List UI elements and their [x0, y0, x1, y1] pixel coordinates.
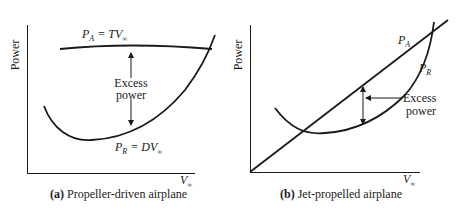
power-curves-figure: Power Excess power PA = TV∞ PR = DV∞ V∞ …: [0, 0, 462, 210]
panel-b-jet: Power Excess power PA PR V∞ (b) Jet-prop…: [231, 20, 448, 201]
panel-a-pa-label: PA = TV∞: [81, 27, 127, 43]
panel-b-pr-label: PR: [418, 61, 431, 77]
panel-b-y-label: Power: [231, 40, 245, 71]
panel-a-pr-label: PR = DV∞: [114, 140, 162, 156]
panel-b-excess-label-2: power: [406, 104, 436, 118]
panel-b-caption: (b) Jet-propelled airplane: [280, 187, 402, 201]
panel-b-x-label: V∞: [403, 172, 415, 188]
panel-a-power-available-curve: [60, 46, 212, 50]
panel-b-excess-label-1: Excess: [403, 91, 437, 105]
panel-b-pa-label: PA: [397, 33, 410, 49]
panel-a-excess-label-2: power: [116, 88, 146, 102]
panel-a-y-label: Power: [8, 40, 22, 71]
panel-a-caption: (a) Propeller-driven airplane: [50, 187, 187, 201]
panel-a-propeller: Power Excess power PA = TV∞ PR = DV∞ V∞ …: [8, 25, 215, 201]
